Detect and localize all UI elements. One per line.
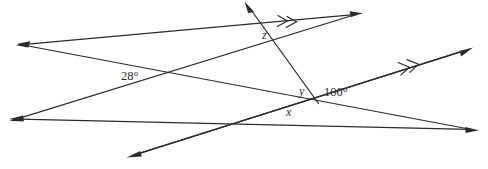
geometry-diagram: 28° 100° z y x	[0, 0, 488, 169]
arrowhead-steep-top	[245, 2, 255, 14]
line-upper-parallel	[16, 11, 363, 47]
angle-label-z: z	[262, 29, 267, 41]
diagram-canvas	[0, 0, 488, 169]
angle-label-100: 100°	[324, 86, 348, 99]
line-lowerleft-to-upperright	[10, 15, 355, 121]
line-lower-parallel-segment	[135, 51, 464, 155]
arrowhead-lowerleft-start	[10, 115, 25, 121]
angle-label-x: x	[286, 106, 291, 118]
angle-label-28: 28°	[121, 70, 139, 83]
line-upperleft-to-lowerright	[17, 41, 470, 129]
angle-label-y: y	[299, 85, 304, 97]
parallel-marks-lower	[398, 60, 419, 76]
line-shallow-transversal	[9, 116, 479, 133]
arrowhead-shallow-right	[465, 127, 479, 133]
arrowhead-lower-left	[127, 151, 142, 158]
